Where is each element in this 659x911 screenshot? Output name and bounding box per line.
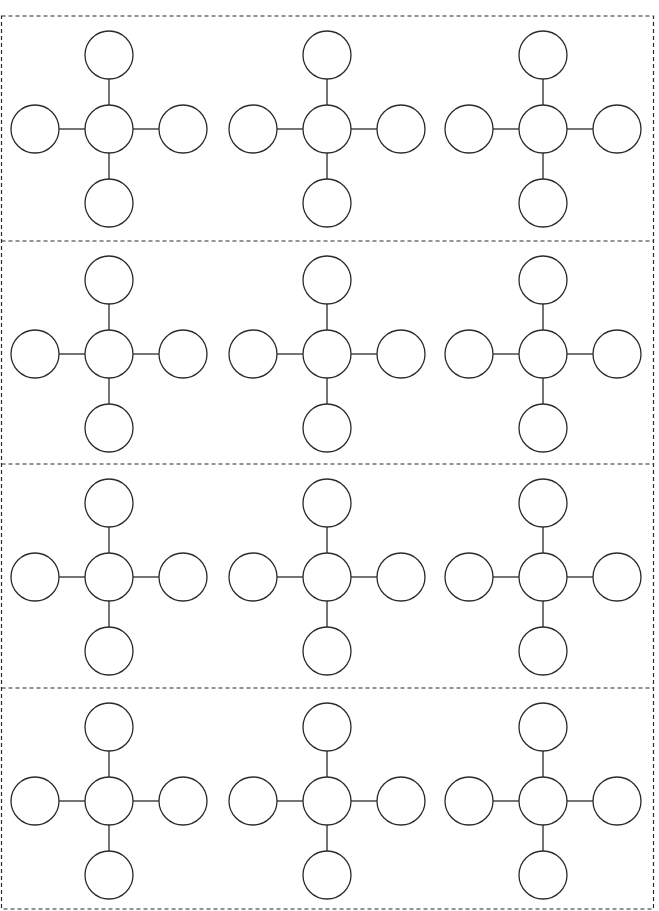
bubble-center[interactable]	[519, 330, 567, 378]
worksheet	[0, 0, 659, 911]
bubble-top[interactable]	[85, 703, 133, 751]
bubble-bottom[interactable]	[85, 404, 133, 452]
bubble-right[interactable]	[593, 330, 641, 378]
bubble-left[interactable]	[445, 105, 493, 153]
bubble-right[interactable]	[377, 777, 425, 825]
bubble-bottom[interactable]	[85, 851, 133, 899]
star-diagram-r4-c2	[229, 703, 425, 899]
bubble-right[interactable]	[593, 553, 641, 601]
bubble-bottom[interactable]	[85, 627, 133, 675]
bubble-left[interactable]	[445, 330, 493, 378]
bubble-center[interactable]	[303, 553, 351, 601]
bubble-center[interactable]	[303, 777, 351, 825]
bubble-left[interactable]	[229, 330, 277, 378]
bubble-left[interactable]	[445, 553, 493, 601]
bubble-left[interactable]	[229, 777, 277, 825]
bubble-bottom[interactable]	[519, 851, 567, 899]
star-diagram-r2-c1	[11, 256, 207, 452]
star-diagram-r2-c2	[229, 256, 425, 452]
bubble-top[interactable]	[303, 479, 351, 527]
bubble-right[interactable]	[159, 330, 207, 378]
star-diagram-r1-c2	[229, 31, 425, 227]
bubble-center[interactable]	[85, 777, 133, 825]
bubble-bottom[interactable]	[303, 851, 351, 899]
bubble-top[interactable]	[519, 703, 567, 751]
bubble-right[interactable]	[593, 777, 641, 825]
bubble-top[interactable]	[519, 31, 567, 79]
bubble-bottom[interactable]	[85, 179, 133, 227]
bubble-right[interactable]	[159, 777, 207, 825]
worksheet-canvas	[0, 0, 659, 911]
bubble-bottom[interactable]	[303, 179, 351, 227]
star-diagram-r3-c3	[445, 479, 641, 675]
bubble-right[interactable]	[593, 105, 641, 153]
bubble-top[interactable]	[85, 31, 133, 79]
bubble-top[interactable]	[519, 479, 567, 527]
bubble-left[interactable]	[229, 105, 277, 153]
star-diagram-r4-c3	[445, 703, 641, 899]
star-diagram-r2-c3	[445, 256, 641, 452]
star-diagram-r3-c2	[229, 479, 425, 675]
bubble-center[interactable]	[303, 105, 351, 153]
bubble-center[interactable]	[85, 105, 133, 153]
bubble-bottom[interactable]	[519, 179, 567, 227]
bubble-bottom[interactable]	[519, 404, 567, 452]
bubble-right[interactable]	[159, 105, 207, 153]
bubble-center[interactable]	[519, 553, 567, 601]
star-diagram-r3-c1	[11, 479, 207, 675]
bubble-top[interactable]	[303, 703, 351, 751]
star-diagram-r1-c3	[445, 31, 641, 227]
bubble-top[interactable]	[303, 256, 351, 304]
bubble-top[interactable]	[303, 31, 351, 79]
bubble-center[interactable]	[303, 330, 351, 378]
bubble-left[interactable]	[11, 105, 59, 153]
bubble-center[interactable]	[519, 105, 567, 153]
bubble-top[interactable]	[519, 256, 567, 304]
bubble-left[interactable]	[11, 330, 59, 378]
bubble-right[interactable]	[159, 553, 207, 601]
bubble-top[interactable]	[85, 256, 133, 304]
bubble-bottom[interactable]	[519, 627, 567, 675]
star-diagram-r4-c1	[11, 703, 207, 899]
bubble-top[interactable]	[85, 479, 133, 527]
bubble-right[interactable]	[377, 330, 425, 378]
star-diagram-r1-c1	[11, 31, 207, 227]
bubble-left[interactable]	[11, 553, 59, 601]
bubble-left[interactable]	[11, 777, 59, 825]
bubble-bottom[interactable]	[303, 627, 351, 675]
bubble-center[interactable]	[85, 330, 133, 378]
bubble-left[interactable]	[229, 553, 277, 601]
bubble-bottom[interactable]	[303, 404, 351, 452]
bubble-center[interactable]	[519, 777, 567, 825]
bubble-right[interactable]	[377, 105, 425, 153]
bubble-right[interactable]	[377, 553, 425, 601]
bubble-center[interactable]	[85, 553, 133, 601]
bubble-left[interactable]	[445, 777, 493, 825]
